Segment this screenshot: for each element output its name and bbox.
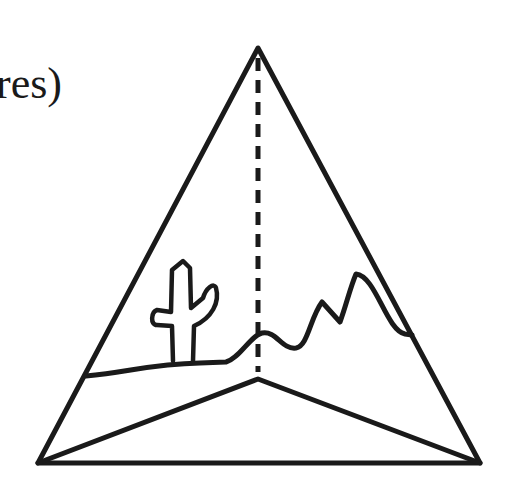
cactus xyxy=(152,261,217,361)
pyramid-diagram xyxy=(0,0,516,492)
horizon-mountains xyxy=(86,274,412,376)
pyramid-base-edges xyxy=(38,379,480,463)
